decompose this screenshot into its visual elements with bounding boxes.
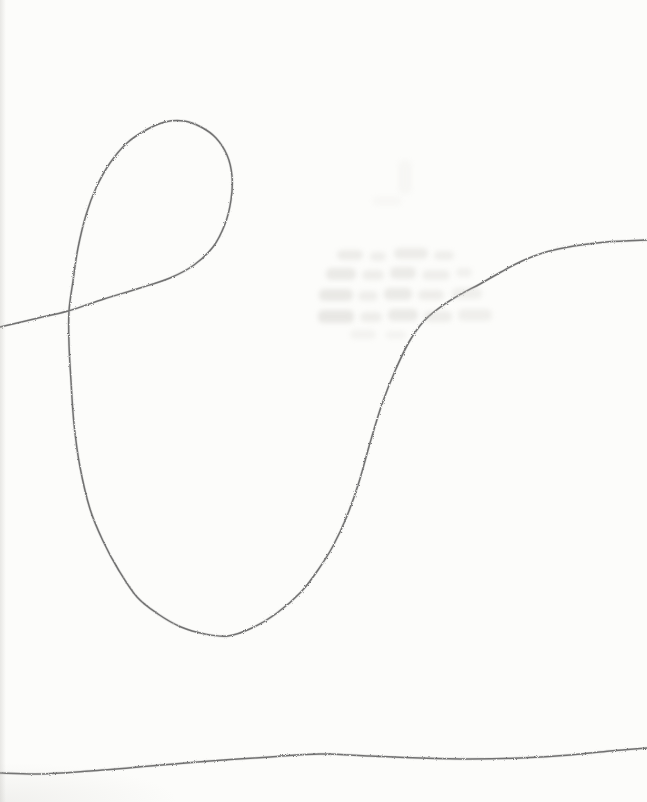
scanner-corner-shade xyxy=(0,762,180,802)
loop-curve-stroke xyxy=(0,121,647,637)
scanner-edge-artifact xyxy=(0,0,6,802)
scanned-paper xyxy=(0,0,647,802)
loop-curve-stroke-soft xyxy=(0,121,647,637)
strokes-group xyxy=(0,121,647,774)
sketch-svg xyxy=(0,0,647,802)
